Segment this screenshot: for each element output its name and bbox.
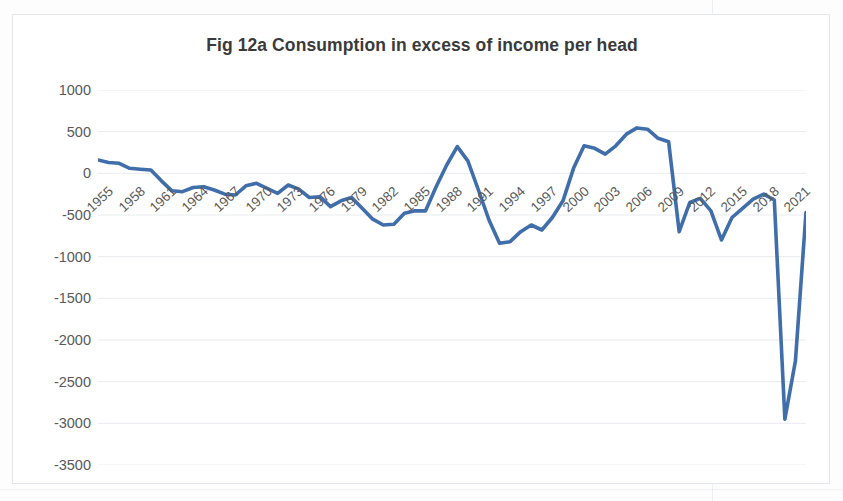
scanned-page: Fig 12a Consumption in excess of income …	[0, 0, 843, 501]
x-axis-tick-labels: 1955195819611964196719701973197619791982…	[98, 200, 806, 260]
y-axis-tick-label: 1000	[25, 82, 91, 98]
chart-title: Fig 12a Consumption in excess of income …	[13, 35, 831, 56]
y-axis-tick-label: -2500	[25, 374, 91, 390]
y-axis-tick-label: -2000	[25, 332, 91, 348]
line-chart-svg	[98, 90, 806, 465]
y-axis-tick-label: 0	[25, 165, 91, 181]
gridlines	[98, 90, 806, 465]
chart-frame: Fig 12a Consumption in excess of income …	[12, 14, 830, 484]
y-axis-tick-label: -3500	[25, 457, 91, 473]
plot-area	[98, 90, 806, 465]
y-axis-tick-label: 500	[25, 124, 91, 140]
y-axis-tick-label: -3000	[25, 415, 91, 431]
data-series-line	[98, 128, 806, 419]
scan-artifact-horizontal-line	[0, 489, 843, 490]
y-axis-tick-labels: 10005000-500-1000-1500-2000-2500-3000-35…	[13, 90, 91, 465]
y-axis-tick-label: -500	[25, 207, 91, 223]
y-axis-tick-label: -1500	[25, 290, 91, 306]
y-axis-tick-label: -1000	[25, 249, 91, 265]
